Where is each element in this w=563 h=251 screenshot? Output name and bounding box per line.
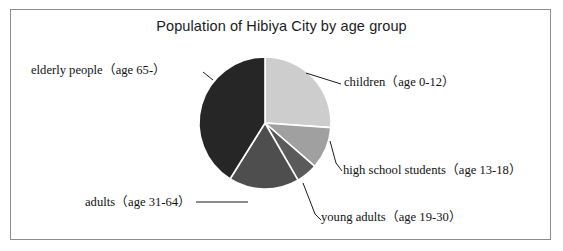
- leader-line-elderly-people: [203, 72, 213, 80]
- leader-line-high-school-students: [330, 141, 342, 171]
- leader-line-young-adults: [303, 183, 321, 220]
- pie-label-young-adults: young adults（age 19-30）: [321, 211, 462, 224]
- pie-label-high-school-students: high school students（age 13-18）: [343, 164, 522, 177]
- pie-chart-graphic: [0, 0, 563, 251]
- pie-slices: [199, 57, 331, 189]
- pie-label-adults: adults（age 31-64）: [85, 196, 191, 209]
- pie-slice-children[interactable]: [265, 57, 331, 128]
- pie-chart-figure: Population of Hibiya City by age group e…: [0, 0, 563, 251]
- pie-label-children: children（age 0-12）: [344, 76, 455, 89]
- pie-label-elderly-people: elderly people（age 65-）: [31, 64, 166, 77]
